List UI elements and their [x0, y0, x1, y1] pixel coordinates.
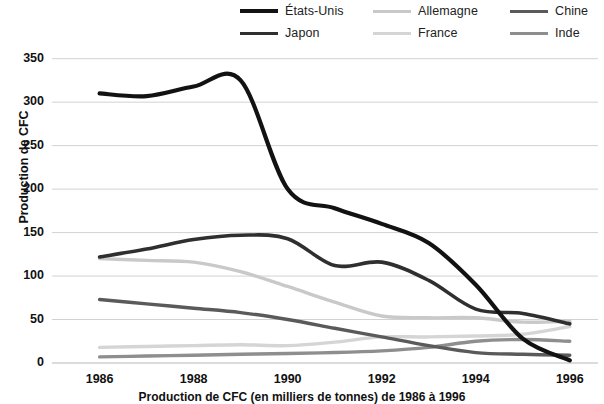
y-tick-label: 100	[6, 268, 44, 282]
legend-swatch-japon	[240, 32, 278, 35]
y-tick-label: 150	[6, 225, 44, 239]
legend-label-allemagne: Allemagne	[418, 4, 478, 18]
y-tick-label: 300	[6, 94, 44, 108]
legend-item-allemagne[interactable]: Allemagne	[373, 4, 510, 18]
x-tick-label: 1992	[352, 372, 412, 386]
legend-label-japon: Japon	[285, 26, 320, 40]
legend-label-etats-unis: États-Unis	[285, 4, 344, 18]
legend-label-france: France	[418, 26, 458, 40]
x-tick-label: 1986	[70, 372, 130, 386]
legend-swatch-etats-unis	[240, 9, 278, 13]
x-tick-label: 1990	[258, 372, 318, 386]
legend-item-chine[interactable]: Chine	[510, 4, 604, 18]
legend-item-inde[interactable]: Inde	[510, 26, 604, 40]
series-line-tats-unis	[100, 74, 570, 361]
legend-swatch-france	[373, 32, 411, 35]
y-tick-label: 350	[6, 51, 44, 65]
legend-row: États-Unis Allemagne Chine	[240, 0, 604, 22]
chart-caption: Production de CFC (en milliers de tonnes…	[0, 390, 604, 404]
legend-row: Japon France Inde	[240, 22, 604, 44]
y-axis-title: Production de CFC	[17, 97, 31, 237]
cfc-production-line-chart: États-Unis Allemagne Chine Japon France	[0, 0, 604, 404]
legend-item-france[interactable]: France	[373, 26, 510, 40]
legend-label-chine: Chine	[555, 4, 588, 18]
y-tick-label: 200	[6, 181, 44, 195]
plot-area	[0, 0, 604, 404]
y-tick-label: 50	[6, 312, 44, 326]
legend-item-japon[interactable]: Japon	[240, 26, 373, 40]
legend-swatch-allemagne	[373, 10, 411, 13]
x-tick-label: 1988	[164, 372, 224, 386]
y-tick-label: 250	[6, 138, 44, 152]
y-tick-label: 0	[6, 355, 44, 369]
chart-legend: États-Unis Allemagne Chine Japon France	[240, 0, 604, 44]
x-tick-label: 1996	[540, 372, 600, 386]
legend-swatch-chine	[510, 10, 548, 13]
legend-swatch-inde	[510, 32, 548, 35]
legend-label-inde: Inde	[555, 26, 580, 40]
x-tick-label: 1994	[446, 372, 506, 386]
legend-item-etats-unis[interactable]: États-Unis	[240, 4, 373, 18]
